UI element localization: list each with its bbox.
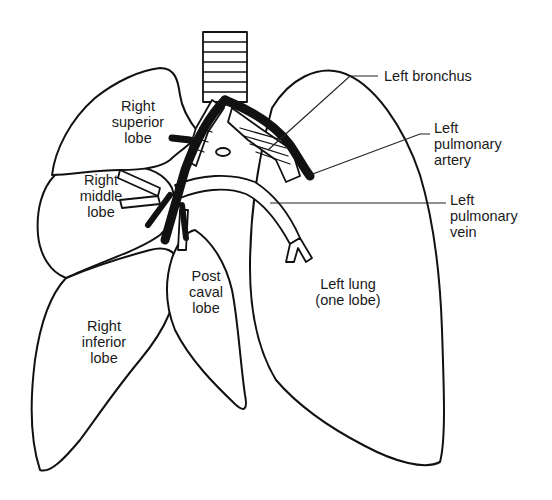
label-right-middle-lobe: Right middle lobe	[66, 172, 136, 220]
label-left-pulmonary-artery: Left pulmonary artery	[434, 120, 544, 168]
label-left-bronchus: Left bronchus	[384, 68, 544, 84]
label-left-pulmonary-vein: Left pulmonary vein	[450, 192, 550, 240]
label-left-lung: Left lung (one lobe)	[300, 276, 396, 308]
post-caval-lobe-outline	[167, 230, 246, 409]
label-post-caval-lobe: Post caval lobe	[176, 268, 236, 316]
trachea	[203, 32, 247, 102]
label-right-superior-lobe: Right superior lobe	[100, 98, 176, 146]
label-right-inferior-lobe: Right inferior lobe	[64, 318, 144, 366]
